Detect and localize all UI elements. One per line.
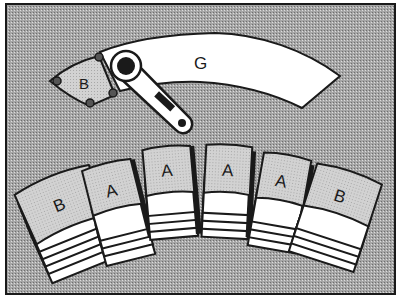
stack-3: A [142, 144, 202, 240]
top-piece-label: B [79, 75, 89, 92]
guide-label: G [194, 54, 207, 73]
stack-4: A [202, 143, 257, 239]
diagram-canvas: G B B [0, 0, 400, 299]
pin-icon [86, 99, 94, 107]
stack-label: A [222, 161, 235, 181]
pin-icon [53, 77, 61, 85]
pin-icon [109, 89, 117, 97]
pin-icon [95, 53, 103, 61]
